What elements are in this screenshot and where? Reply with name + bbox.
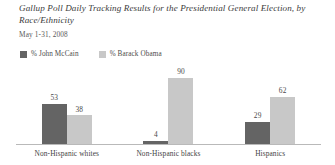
chart-legend: % John McCain% Barack Obama bbox=[20, 50, 182, 58]
plot-area: 53384902962 bbox=[16, 68, 321, 144]
bar-value-label: 90 bbox=[177, 68, 185, 76]
chart-title: Gallup Poll Daily Tracking Results for t… bbox=[19, 3, 321, 26]
bar[interactable] bbox=[42, 104, 67, 144]
legend-label: % Barack Obama bbox=[110, 50, 162, 58]
legend-item[interactable]: % John McCain bbox=[20, 50, 79, 58]
bar-item[interactable]: 62 bbox=[270, 68, 295, 144]
bar[interactable] bbox=[245, 122, 270, 144]
chart-container: Gallup Poll Daily Tracking Results for t… bbox=[0, 0, 335, 165]
bar-value-label: 53 bbox=[51, 94, 59, 102]
bar-value-label: 4 bbox=[154, 131, 158, 139]
bar[interactable] bbox=[270, 97, 295, 144]
bar-group: 5338 bbox=[16, 68, 118, 144]
bar-value-label: 38 bbox=[76, 106, 84, 114]
bar-value-label: 62 bbox=[279, 87, 287, 95]
bar[interactable] bbox=[168, 78, 193, 145]
bar-group: 490 bbox=[118, 68, 220, 144]
legend-label: % John McCain bbox=[31, 50, 79, 58]
legend-swatch-icon bbox=[99, 51, 106, 58]
chart-subtitle: May 1-31, 2008 bbox=[19, 30, 321, 39]
category-label: Non-Hispanic blacks bbox=[118, 149, 220, 158]
x-axis-line bbox=[16, 144, 321, 145]
bar-item[interactable]: 38 bbox=[67, 68, 92, 144]
bar-item[interactable]: 29 bbox=[245, 68, 270, 144]
bar-item[interactable]: 4 bbox=[143, 68, 168, 144]
bar-group: 2962 bbox=[219, 68, 321, 144]
legend-swatch-icon bbox=[20, 51, 27, 58]
category-label: Hispanics bbox=[219, 149, 321, 158]
bar-item[interactable]: 53 bbox=[42, 68, 67, 144]
bar-value-label: 29 bbox=[254, 112, 262, 120]
legend-item[interactable]: % Barack Obama bbox=[99, 50, 162, 58]
bar-item[interactable]: 90 bbox=[168, 68, 193, 144]
bar[interactable] bbox=[67, 115, 92, 144]
chart-header: Gallup Poll Daily Tracking Results for t… bbox=[19, 3, 321, 39]
category-label: Non-Hispanic whites bbox=[16, 149, 118, 158]
